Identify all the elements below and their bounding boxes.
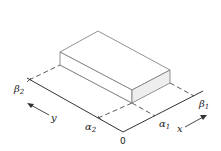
x-arrow-icon [200,115,207,120]
alpha1-line [132,103,155,116]
y-arrow-icon [27,103,34,108]
alpha2-label: α2 [85,121,97,134]
alpha1-label: α1 [159,118,170,131]
beta1-line [170,83,194,96]
origin-label: 0 [120,136,126,146]
beta2-label: β2 [13,83,25,96]
block-diagram: β2 y α2 0 α1 x β1 [0,0,221,151]
beta2-line [29,65,60,80]
alpha2-line [98,103,132,118]
y-axis-label: y [50,112,57,123]
x-axis-label: x [177,123,183,134]
beta1-label: β1 [198,98,209,111]
